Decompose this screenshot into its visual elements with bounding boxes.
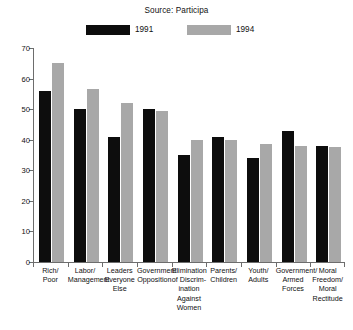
y-axis-tick-label: 70 (22, 44, 30, 53)
x-axis-category-label: Parents/Children (206, 266, 241, 284)
x-axis-category-label-line: of Discrim- (172, 275, 207, 284)
legend-swatch-1991 (86, 25, 130, 35)
bar-group (108, 48, 133, 262)
bar-group (247, 48, 272, 262)
x-axis-category-label: GovernmentOpposition (137, 266, 172, 284)
legend-entry-1991: 1991 (86, 25, 153, 35)
chart-source-title: Source: Participa (0, 6, 353, 15)
bar-1991-5 (212, 137, 224, 262)
x-axis-category-label-line: Government/ (276, 266, 311, 275)
x-axis-category-label-line: Freedom/ (310, 275, 345, 284)
bar-group (282, 48, 307, 262)
bar-group (74, 48, 99, 262)
bar-chart: Source: Participa 1991 1994 010203040506… (0, 0, 353, 330)
x-axis-category-label-line: Poor (33, 275, 68, 284)
x-axis-category-label-line: Adults (241, 275, 276, 284)
bar-group (143, 48, 168, 262)
x-axis-category-label-line: Parents/ (206, 266, 241, 275)
y-axis-tick-label: 30 (22, 166, 30, 175)
bar-group (39, 48, 64, 262)
x-axis-category-label-line: Rectitude (310, 294, 345, 303)
x-axis-category-label: Youth/Adults (241, 266, 276, 284)
bar-1991-4 (178, 155, 190, 262)
y-axis-tick-label: 10 (22, 227, 30, 236)
x-axis-category-label-line: ination Against (172, 284, 207, 302)
bar-group (178, 48, 203, 262)
y-axis-line (33, 48, 34, 263)
y-axis-tick-label: 20 (22, 196, 30, 205)
y-axis-tick-label: 0 (26, 258, 30, 267)
x-axis-category-label-line: Government (137, 266, 172, 275)
x-axis-category-label: Rich/Poor (33, 266, 68, 284)
bar-1991-3 (143, 109, 155, 262)
x-axis-category-label-line: Else (102, 284, 137, 293)
x-axis-category-labels: Rich/PoorLabor/ManagementLeadersEveryone… (33, 266, 345, 328)
bar-1994-8 (329, 147, 341, 262)
y-axis-tick-label: 40 (22, 135, 30, 144)
bar-1991-6 (247, 158, 259, 262)
bar-1994-5 (225, 140, 237, 262)
x-axis-category-label-line: Armed Forces (276, 275, 311, 293)
x-axis-category-label-line: Children (206, 275, 241, 284)
y-axis-tick-label: 50 (22, 105, 30, 114)
plot-area: 010203040506070 (33, 48, 345, 263)
bar-1994-6 (260, 144, 272, 262)
bar-1994-3 (156, 111, 168, 262)
chart-legend: 1991 1994 (86, 25, 286, 38)
bar-1994-4 (191, 140, 203, 262)
bar-1991-7 (282, 131, 294, 262)
x-axis-category-label-line: Everyone (102, 275, 137, 284)
legend-entry-1994: 1994 (187, 25, 254, 35)
bar-group (212, 48, 237, 262)
x-axis-category-label-line: Women (172, 303, 207, 312)
y-axis-tick-label: 60 (22, 74, 30, 83)
x-axis-category-label: Eliminationof Discrim-ination AgainstWom… (172, 266, 207, 312)
x-axis-category-label: Government/Armed Forces (276, 266, 311, 294)
x-axis-category-label-line: Moral (310, 284, 345, 293)
x-axis-category-label-line: Moral (310, 266, 345, 275)
x-axis-category-label: LeadersEveryoneElse (102, 266, 137, 294)
x-axis-category-label: MoralFreedom/MoralRectitude (310, 266, 345, 303)
bar-1991-1 (74, 109, 86, 262)
x-axis-line (33, 262, 345, 263)
x-axis-category-label-line: Labor/ (68, 266, 103, 275)
x-axis-category-label-line: Rich/ (33, 266, 68, 275)
bar-1994-0 (52, 63, 64, 262)
legend-label-1994: 1994 (236, 25, 254, 35)
bar-1991-0 (39, 91, 51, 262)
x-axis-category-label-line: Opposition (137, 275, 172, 284)
legend-label-1991: 1991 (135, 25, 153, 35)
bar-1994-1 (87, 89, 99, 262)
x-axis-category-label-line: Management (68, 275, 103, 284)
bar-1991-2 (108, 137, 120, 262)
x-axis-category-label-line: Youth/ (241, 266, 276, 275)
legend-swatch-1994 (187, 25, 231, 35)
x-axis-category-label-line: Leaders (102, 266, 137, 275)
bar-1991-8 (316, 146, 328, 262)
x-axis-category-label-line: Elimination (172, 266, 207, 275)
bar-1994-2 (121, 103, 133, 262)
x-axis-category-label: Labor/Management (68, 266, 103, 284)
bar-1994-7 (295, 146, 307, 262)
bar-group (316, 48, 341, 262)
